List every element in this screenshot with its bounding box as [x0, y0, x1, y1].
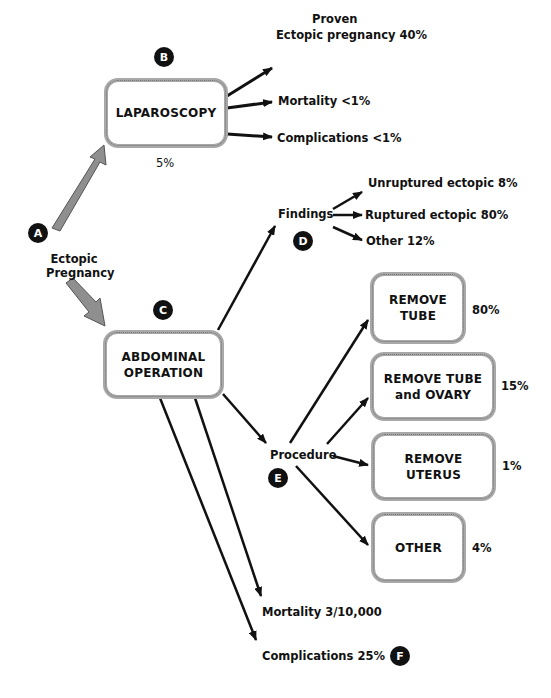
arrow-layer [0, 0, 551, 698]
arrow-to-laparoscopy [52, 145, 106, 231]
finding-other: Other 12% [366, 234, 434, 248]
badge-d: D [293, 231, 313, 251]
abdominal-operation-box: ABDOMINAL OPERATION [103, 330, 224, 399]
badge-b: B [154, 47, 174, 67]
proven-label: Proven [312, 12, 357, 26]
remove-uterus-percent: 1% [502, 459, 522, 473]
abdominal-label-line2: OPERATION [124, 365, 203, 381]
remove-tube-ovary-percent: 15% [501, 379, 529, 393]
other-procedure-percent: 4% [472, 541, 492, 555]
start-label-line1: Ectopic [46, 252, 102, 266]
remove-tube-ovary-line2: and OVARY [395, 387, 471, 403]
remove-tube-line1: REMOVE [389, 292, 447, 308]
proven-ectopic-label: Ectopic pregnancy 40% [276, 28, 427, 42]
start-label-line2: Pregnancy [46, 266, 102, 280]
remove-tube-box: REMOVE TUBE [370, 272, 466, 344]
abdominal-mortality: Mortality 3/10,000 [262, 605, 382, 619]
laparoscopy-percent: 5% [156, 156, 174, 170]
other-procedure-box: OTHER [371, 512, 466, 583]
procedure-label: Procedure [270, 448, 337, 462]
laparoscopy-box: LAPAROSCOPY [104, 78, 228, 148]
abdominal-label-line1: ABDOMINAL [122, 349, 206, 365]
remove-tube-percent: 80% [472, 303, 500, 317]
badge-a: A [28, 223, 48, 243]
remove-tube-ovary-line1: REMOVE TUBE [384, 371, 482, 387]
abdominal-complications: Complications 25% [262, 649, 385, 663]
remove-tube-ovary-box: REMOVE TUBE and OVARY [370, 352, 496, 421]
laparoscopy-mortality: Mortality <1% [278, 94, 370, 108]
laparoscopy-complications: Complications <1% [277, 131, 402, 145]
start-label: Ectopic Pregnancy [46, 252, 102, 280]
remove-uterus-label: REMOVE UTERUS [375, 451, 492, 483]
badge-e: E [268, 468, 288, 488]
badge-f: F [390, 646, 410, 666]
finding-ruptured: Ruptured ectopic 80% [365, 208, 508, 222]
other-procedure-label: OTHER [395, 540, 442, 556]
remove-tube-line2: TUBE [400, 308, 436, 324]
laparoscopy-label: LAPAROSCOPY [116, 105, 217, 121]
findings-label: Findings [278, 207, 333, 221]
arrow-to-abdominal [66, 278, 105, 326]
remove-uterus-box: REMOVE UTERUS [371, 432, 496, 501]
badge-c: C [153, 300, 173, 320]
finding-unruptured: Unruptured ectopic 8% [368, 176, 518, 190]
